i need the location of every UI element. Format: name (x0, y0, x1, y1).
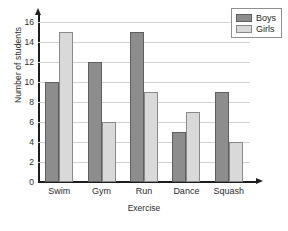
x-axis-tick-label-swim: Swim (38, 186, 80, 196)
y-axis-arrow-icon (35, 8, 41, 15)
y-axis-tick-label: 4 (29, 137, 34, 147)
grid-line (38, 22, 250, 23)
x-axis-title: Exercise (38, 203, 250, 213)
y-axis-tick-label: 8 (29, 97, 34, 107)
bar-chart: Number of students 0246810121416 SwimGym… (0, 0, 288, 231)
y-axis-tick-label: 10 (25, 77, 34, 87)
bar-girls-dance (186, 112, 200, 182)
legend-item-boys: Boys (236, 12, 276, 23)
bar-girls-squash (229, 142, 243, 182)
bar-girls-swim (59, 32, 73, 182)
y-axis-tick-label: 0 (29, 177, 34, 187)
x-axis-arrow-icon (256, 178, 263, 184)
x-axis-tick-label-squash: Squash (208, 186, 250, 196)
bar-boys-dance (172, 132, 186, 182)
legend-label-girls: Girls (256, 24, 275, 34)
y-axis-tick-label: 14 (25, 37, 34, 47)
bar-boys-gym (88, 62, 102, 182)
y-axis-tick-label: 6 (29, 117, 34, 127)
bar-boys-run (130, 32, 144, 182)
bar-boys-swim (45, 82, 59, 182)
bar-boys-squash (215, 92, 229, 182)
legend-swatch-girls-icon (236, 25, 252, 33)
y-axis-title: Number of students (13, 0, 23, 135)
bar-girls-run (144, 92, 158, 182)
y-axis-tick-label: 12 (25, 57, 34, 67)
x-axis-tick-label-dance: Dance (165, 186, 207, 196)
y-axis-tick-label: 2 (29, 157, 34, 167)
bar-girls-gym (102, 122, 116, 182)
plot-area: 0246810121416 (38, 22, 250, 182)
legend-swatch-boys-icon (236, 14, 252, 22)
x-axis-tick-label-gym: Gym (80, 186, 122, 196)
legend: Boys Girls (231, 8, 282, 38)
legend-item-girls: Girls (236, 23, 276, 34)
legend-label-boys: Boys (256, 13, 276, 23)
y-axis-tick-label: 16 (25, 17, 34, 27)
x-axis-tick-label-run: Run (123, 186, 165, 196)
